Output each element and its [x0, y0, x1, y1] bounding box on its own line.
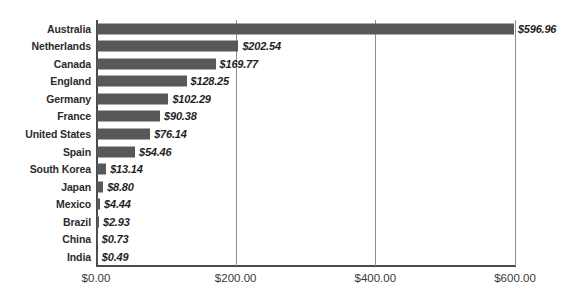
- category-label: Australia: [47, 23, 91, 35]
- category-label: Netherlands: [31, 40, 91, 52]
- bar-value-label: $0.73: [102, 233, 129, 245]
- bar-value-label: $54.46: [139, 146, 171, 158]
- category-label: India: [67, 251, 91, 263]
- category-label: England: [50, 75, 91, 87]
- bar: [97, 164, 106, 175]
- bar-value-label: $202.54: [242, 40, 280, 52]
- bar-value-label: $90.38: [164, 110, 196, 122]
- bar-value-label: $13.14: [110, 163, 142, 175]
- chart-row: India$0.49: [96, 248, 515, 265]
- chart-row: South Korea$13.14: [96, 161, 515, 178]
- chart-row: France$90.38: [96, 108, 515, 125]
- category-label: Spain: [63, 146, 91, 158]
- category-label: China: [62, 233, 91, 245]
- category-label: United States: [25, 128, 91, 140]
- bar-value-label: $0.49: [102, 251, 129, 263]
- chart-row: Canada$169.77: [96, 55, 515, 72]
- plot-area: Australia$596.96Netherlands$202.54Canada…: [96, 20, 515, 266]
- horizontal-bar-chart: Australia$596.96Netherlands$202.54Canada…: [0, 0, 569, 296]
- bar: [97, 76, 187, 87]
- category-label: Japan: [61, 181, 91, 193]
- chart-row: England$128.25: [96, 73, 515, 90]
- bar: [97, 58, 216, 69]
- bar: [97, 234, 98, 245]
- chart-row: Brazil$2.93: [96, 213, 515, 230]
- chart-row: China$0.73: [96, 231, 515, 248]
- x-tick-label: $0.00: [82, 272, 111, 284]
- gridline: [515, 20, 516, 266]
- bar: [97, 93, 168, 104]
- bar-value-label: $8.80: [107, 181, 134, 193]
- bar: [97, 111, 160, 122]
- category-label: Canada: [54, 58, 91, 70]
- scan-artifact: [0, 0, 569, 7]
- bar: [97, 181, 103, 192]
- chart-row: Mexico$4.44: [96, 196, 515, 213]
- chart-row: United States$76.14: [96, 125, 515, 142]
- bar: [97, 216, 99, 227]
- bar-value-label: $169.77: [220, 58, 258, 70]
- chart-row: Japan$8.80: [96, 178, 515, 195]
- chart-row: Germany$102.29: [96, 90, 515, 107]
- x-tick-label: $400.00: [355, 272, 397, 284]
- bar: [97, 146, 135, 157]
- category-label: France: [57, 110, 91, 122]
- bar-value-label: $102.29: [172, 93, 210, 105]
- category-label: South Korea: [30, 163, 91, 175]
- x-tick-label: $200.00: [215, 272, 257, 284]
- bar: [97, 41, 238, 52]
- bar: [97, 23, 514, 34]
- bar-value-label: $596.96: [518, 23, 556, 35]
- category-label: Brazil: [63, 216, 91, 228]
- chart-row: Spain$54.46: [96, 143, 515, 160]
- bar-value-label: $4.44: [104, 198, 131, 210]
- bar: [97, 128, 150, 139]
- bar-value-label: $76.14: [154, 128, 186, 140]
- category-label: Germany: [46, 93, 91, 105]
- chart-row: Netherlands$202.54: [96, 38, 515, 55]
- chart-row: Australia$596.96: [96, 20, 515, 37]
- bar-value-label: $2.93: [103, 216, 130, 228]
- bar: [97, 251, 98, 262]
- bar-value-label: $128.25: [191, 75, 229, 87]
- category-label: Mexico: [56, 198, 91, 210]
- bar: [97, 199, 100, 210]
- x-tick-label: $600.00: [494, 272, 536, 284]
